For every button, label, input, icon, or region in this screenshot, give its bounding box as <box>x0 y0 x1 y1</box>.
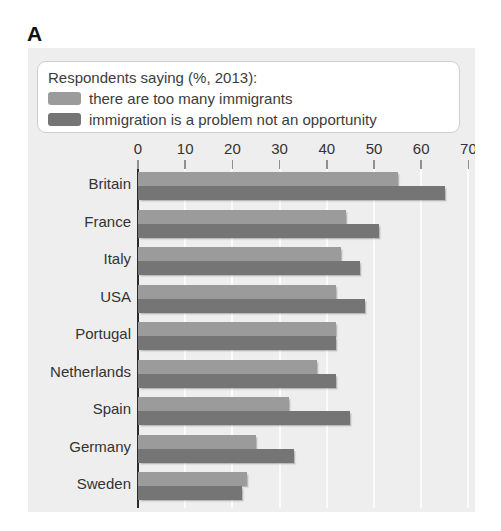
tick-mark-50 <box>373 160 375 169</box>
tick-mark-40 <box>326 160 328 169</box>
bar-netherlands-series-1 <box>138 360 317 374</box>
category-label-portugal: Portugal <box>31 325 131 342</box>
bar-italy-series-1 <box>138 247 341 261</box>
bar-britain-series-2 <box>138 186 445 200</box>
bar-britain-series-1 <box>138 172 398 186</box>
bar-germany-series-1 <box>138 435 256 449</box>
legend-title: Respondents saying (%, 2013): <box>48 68 449 88</box>
tick-label-60: 60 <box>413 140 430 157</box>
tick-label-20: 20 <box>224 140 241 157</box>
bar-usa-series-2 <box>138 299 365 313</box>
tick-label-70: 70 <box>460 140 475 157</box>
category-label-italy: Italy <box>31 250 131 267</box>
bar-netherlands-series-2 <box>138 374 336 388</box>
tick-mark-20 <box>232 160 234 169</box>
legend-swatch-immigration-problem <box>48 113 81 126</box>
legend-swatch-too-many-immigrants <box>48 92 81 105</box>
bar-sweden-series-1 <box>138 472 247 486</box>
category-label-germany: Germany <box>31 438 131 455</box>
gridline-60 <box>420 169 422 508</box>
tick-mark-10 <box>184 160 186 169</box>
category-label-sweden: Sweden <box>31 475 131 492</box>
bar-france-series-2 <box>138 224 379 238</box>
bar-portugal-series-1 <box>138 322 336 336</box>
bar-italy-series-2 <box>138 261 360 275</box>
tick-label-10: 10 <box>177 140 194 157</box>
tick-mark-0 <box>137 160 139 169</box>
category-label-britain: Britain <box>31 175 131 192</box>
tick-label-30: 30 <box>271 140 288 157</box>
tick-mark-30 <box>279 160 281 169</box>
bar-portugal-series-2 <box>138 336 336 350</box>
tick-mark-60 <box>420 160 422 169</box>
gridline-70 <box>467 169 469 508</box>
tick-label-50: 50 <box>366 140 383 157</box>
bar-france-series-1 <box>138 210 346 224</box>
legend-label-too-many-immigrants: there are too many immigrants <box>89 90 292 107</box>
category-label-usa: USA <box>31 288 131 305</box>
category-label-france: France <box>31 213 131 230</box>
gridline-50 <box>373 169 375 508</box>
legend-item-too-many-immigrants: there are too many immigrants <box>48 88 449 109</box>
bar-germany-series-2 <box>138 449 294 463</box>
legend-item-immigration-problem: immigration is a problem not an opportun… <box>48 109 449 130</box>
bar-usa-series-1 <box>138 285 336 299</box>
category-label-spain: Spain <box>31 400 131 417</box>
bar-spain-series-1 <box>138 397 289 411</box>
legend: Respondents saying (%, 2013): there are … <box>37 61 460 133</box>
tick-label-40: 40 <box>318 140 335 157</box>
category-label-netherlands: Netherlands <box>31 363 131 380</box>
tick-label-0: 0 <box>134 140 142 157</box>
panel-letter: A <box>27 22 43 46</box>
bar-sweden-series-2 <box>138 486 242 500</box>
chart-panel: 010203040506070 BritainFranceItalyUSAPor… <box>28 48 475 512</box>
tick-mark-70 <box>468 160 470 169</box>
bar-spain-series-2 <box>138 411 350 425</box>
legend-label-immigration-problem: immigration is a problem not an opportun… <box>89 111 377 128</box>
